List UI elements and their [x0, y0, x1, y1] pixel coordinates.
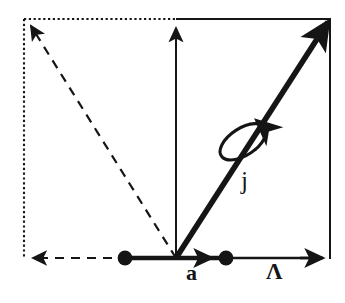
frame-dotted-left — [24, 19, 176, 258]
left-dot-icon — [118, 251, 133, 266]
vector-a-label: a — [186, 262, 197, 284]
vector-j-label: j — [241, 168, 248, 193]
right-dot-icon — [219, 251, 234, 266]
vector-diagram-figure: a Λ j — [0, 0, 345, 303]
vector-j-arrow — [176, 22, 328, 258]
dashed-diagonal-vector — [31, 26, 176, 258]
axis-lambda-label: Λ — [266, 260, 283, 283]
diagram-canvas — [0, 0, 345, 303]
